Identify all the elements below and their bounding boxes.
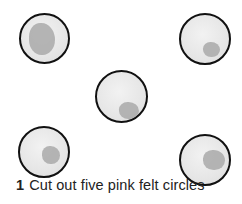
step-caption: 1Cut out five pink felt circles xyxy=(16,177,205,193)
felt-shading xyxy=(203,42,220,57)
felt-circle-middle xyxy=(95,70,148,123)
felt-shading xyxy=(29,23,55,55)
felt-shading xyxy=(42,146,60,164)
felt-shading xyxy=(119,102,139,119)
felt-circle-top-right xyxy=(179,13,231,65)
felt-shading xyxy=(203,150,225,170)
felt-circle-top-left xyxy=(19,13,70,64)
step-number: 1 xyxy=(16,177,24,193)
felt-circle-bottom-left xyxy=(18,126,70,178)
step-text: Cut out five pink felt circles xyxy=(29,177,204,193)
